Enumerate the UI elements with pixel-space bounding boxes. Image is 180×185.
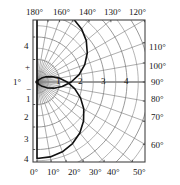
left-tick-minus: −	[26, 85, 31, 94]
radial-label-1: 1	[56, 77, 61, 86]
radial-label-3: 3	[101, 77, 106, 86]
right-tick-70: 70°	[151, 113, 164, 122]
figure-canvas: 180° 160° 140° 130° 120° 110° 100° 90° 8…	[0, 0, 180, 185]
top-tick-120: 120°	[129, 8, 146, 17]
left-tick-1deg: 1°	[13, 78, 21, 87]
bottom-tick-20: 20°	[68, 168, 81, 177]
left-tick-4-lower: 4	[24, 155, 29, 164]
right-tick-80: 80°	[151, 95, 164, 104]
top-tick-130: 130°	[104, 8, 121, 17]
left-tick-1: 1	[26, 95, 31, 104]
bottom-tick-50: 50°	[133, 168, 146, 177]
bottom-tick-0: 0°	[30, 168, 38, 177]
bottom-tick-40: 40°	[107, 168, 120, 177]
right-tick-60: 60°	[151, 141, 164, 150]
radial-label-2: 2	[78, 77, 83, 86]
left-tick-plus: +	[25, 63, 30, 72]
left-tick-2: 2	[24, 113, 29, 122]
bottom-tick-30: 30°	[89, 168, 102, 177]
right-tick-110: 110°	[149, 43, 166, 52]
top-tick-160: 160°	[53, 8, 70, 17]
top-tick-140: 140°	[79, 8, 96, 17]
bottom-tick-10: 10°	[47, 168, 60, 177]
radial-label-4: 4	[124, 77, 129, 86]
right-tick-100: 100°	[149, 62, 166, 71]
right-tick-90: 90°	[151, 78, 164, 87]
left-tick-3: 3	[24, 135, 29, 144]
top-tick-180: 180°	[26, 8, 43, 17]
left-tick-4-upper: 4	[24, 42, 29, 51]
